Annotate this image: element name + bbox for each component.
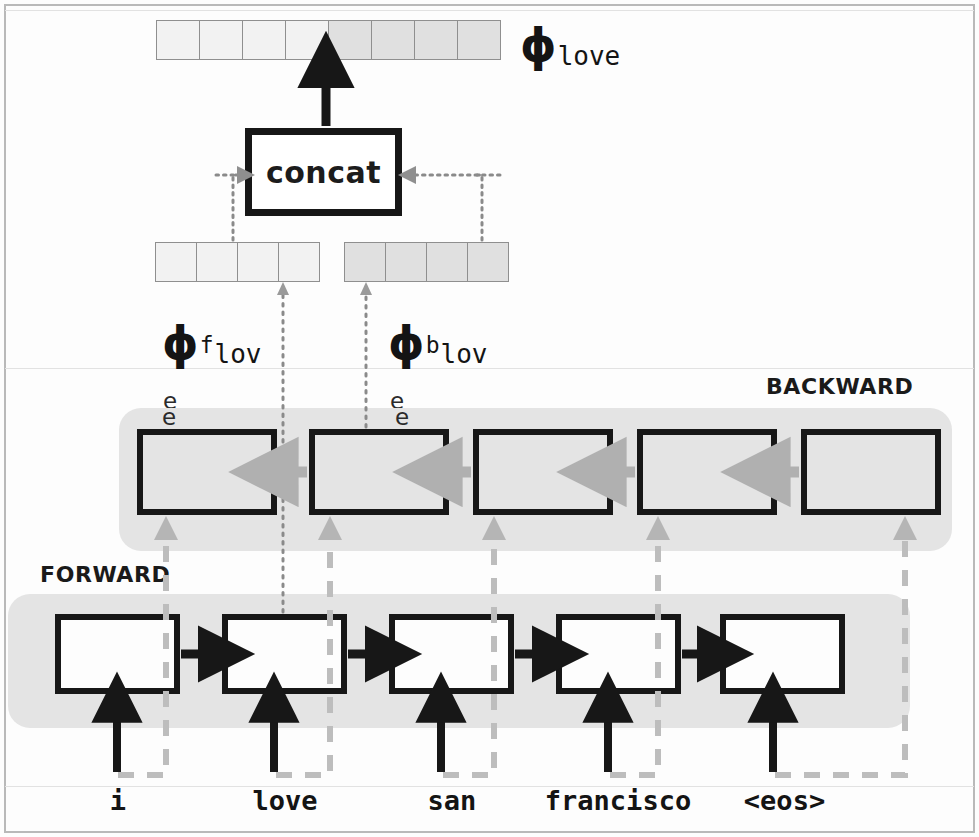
vector-cell bbox=[242, 20, 286, 60]
backward-embedding-vector bbox=[344, 242, 512, 282]
vector-cell bbox=[196, 242, 238, 282]
vector-cell bbox=[371, 20, 415, 60]
vector-cell bbox=[426, 242, 468, 282]
figure-canvas: ϕlove concat ϕflov e ϕblov e BACKWARD e … bbox=[0, 0, 979, 837]
scan-artifact-e-label: e bbox=[162, 404, 176, 430]
forward-vector-to-concat-connector bbox=[216, 175, 243, 240]
forward-rnn-cell[interactable] bbox=[720, 614, 845, 694]
vector-cell bbox=[237, 242, 279, 282]
phi-subscript: lov bbox=[441, 339, 488, 369]
vector-cell bbox=[457, 20, 501, 60]
phi-superscript: b bbox=[426, 332, 440, 358]
scan-artifact-e-label: e bbox=[395, 404, 409, 430]
forward-rnn-cell[interactable] bbox=[222, 614, 347, 694]
vector-cell bbox=[155, 242, 197, 282]
forward-rnn-cell[interactable] bbox=[389, 614, 514, 694]
input-token-label: <eos> bbox=[722, 785, 847, 816]
vector-cell bbox=[285, 20, 329, 60]
phi-superscript: f bbox=[200, 332, 214, 358]
backward-state-to-vector-dotted-line bbox=[360, 282, 372, 427]
backward-vector-to-concat-connector bbox=[410, 175, 500, 240]
phi-glyph: ϕ bbox=[520, 18, 557, 72]
phi-subscript: love bbox=[558, 41, 621, 71]
input-token-label: san bbox=[392, 785, 512, 816]
vector-cell bbox=[199, 20, 243, 60]
phi-glyph: ϕ bbox=[162, 316, 199, 370]
vector-cell bbox=[328, 20, 372, 60]
backward-band-label: BACKWARD bbox=[766, 374, 913, 399]
vector-cell bbox=[156, 20, 200, 60]
vector-cell bbox=[278, 242, 320, 282]
combined-embedding-vector bbox=[156, 20, 508, 60]
backward-rnn-cell[interactable] bbox=[137, 429, 277, 515]
backward-rnn-cell[interactable] bbox=[801, 429, 941, 515]
vector-cell bbox=[414, 20, 458, 60]
input-token-label: francisco bbox=[538, 785, 698, 816]
phi-love-label: ϕlove bbox=[520, 22, 620, 69]
input-token-label: love bbox=[225, 785, 345, 816]
input-token-label: i bbox=[58, 785, 178, 816]
phi-subscript: lov bbox=[215, 339, 262, 369]
phi-glyph: ϕ bbox=[388, 316, 425, 370]
forward-embedding-vector bbox=[155, 242, 323, 282]
phi-backward-label: ϕblov bbox=[388, 320, 487, 367]
concat-box[interactable]: concat bbox=[245, 128, 402, 216]
vector-cell bbox=[385, 242, 427, 282]
backward-rnn-cell[interactable] bbox=[473, 429, 613, 515]
forward-rnn-cell[interactable] bbox=[55, 614, 180, 694]
phi-forward-label: ϕflov bbox=[162, 320, 261, 367]
scan-fold-line-middle bbox=[5, 368, 974, 369]
vector-cell bbox=[344, 242, 386, 282]
scan-fold-line-top bbox=[5, 10, 974, 11]
backward-rnn-cell[interactable] bbox=[309, 429, 449, 515]
backward-rnn-cell[interactable] bbox=[637, 429, 777, 515]
forward-band-label: FORWARD bbox=[40, 562, 170, 587]
concat-label: concat bbox=[266, 155, 381, 190]
vector-cell bbox=[467, 242, 509, 282]
forward-rnn-cell[interactable] bbox=[556, 614, 681, 694]
